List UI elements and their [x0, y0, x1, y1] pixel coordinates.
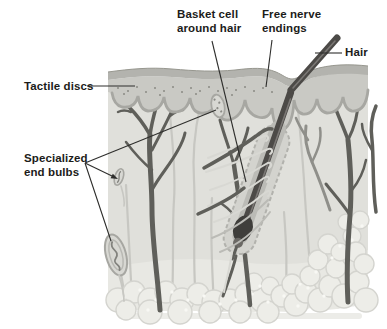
specialized-end-bulbs-label: Specialized end bulbs: [24, 151, 88, 179]
figure-skin-receptors: Basket cell around hair Free nerve endin…: [0, 0, 387, 329]
basket-cell-label: Basket cell around hair: [177, 7, 241, 35]
tactile-discs-label: Tactile discs: [24, 79, 93, 93]
hair-label: Hair: [345, 45, 368, 59]
free-nerve-endings-label: Free nerve endings: [262, 7, 321, 35]
end-bulb-leader-3: [85, 163, 111, 241]
